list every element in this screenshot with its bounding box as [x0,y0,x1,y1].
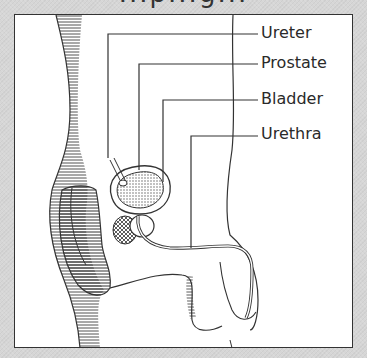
label-prostate: Prostate [261,55,327,71]
scrotum-outline [110,274,222,330]
label-bladder: Bladder [261,91,323,107]
ureter-leader [108,34,258,158]
label-urethra: Urethra [261,126,322,142]
back-body-outline [50,15,104,348]
prostate-leader [139,64,258,170]
urethra-leader [191,136,258,248]
label-ureter: Ureter [261,25,311,41]
bladder-shape [110,166,170,214]
ureter-opening [119,180,127,186]
urethra-tube [138,216,252,318]
leader-lines [108,34,258,248]
bladder-leader [163,100,258,182]
